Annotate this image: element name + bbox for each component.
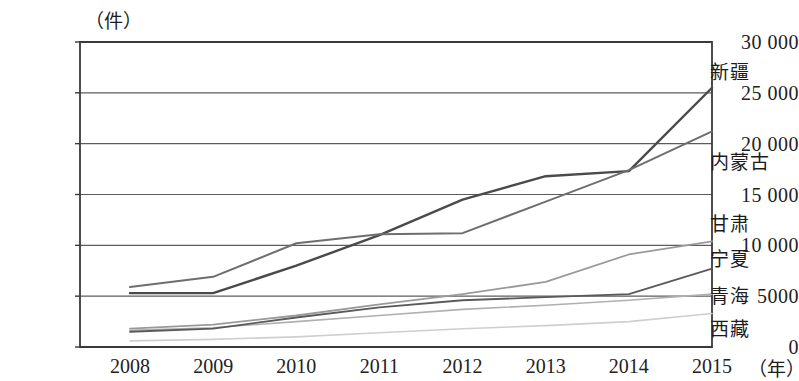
x-axis-tick-label: 2014 <box>609 355 649 378</box>
x-axis-tick-label: 2013 <box>526 355 566 378</box>
series-label-新疆: 新疆 <box>710 57 750 84</box>
x-axis-tick-label: 2015 <box>692 355 732 378</box>
series-line-2 <box>130 241 712 328</box>
y-axis-tick-label: 25 000 <box>727 81 799 104</box>
x-axis-tick-label: 2008 <box>110 355 150 378</box>
series-line-0 <box>130 88 712 293</box>
series-label-宁夏: 宁夏 <box>710 244 750 271</box>
series-label-西藏: 西藏 <box>710 314 750 341</box>
y-axis-tick-label: 15 000 <box>727 183 799 206</box>
y-axis-tick-label: 30 000 <box>727 31 799 54</box>
series-line-1 <box>130 131 712 287</box>
x-axis-unit-label: （年） <box>748 354 799 381</box>
x-axis-tick-label: 2011 <box>360 355 399 378</box>
x-axis-tick-label: 2009 <box>193 355 233 378</box>
x-axis-tick-label: 2012 <box>443 355 483 378</box>
series-label-青海: 青海 <box>710 281 750 308</box>
series-label-内蒙古: 内蒙古 <box>710 147 770 174</box>
series-label-甘肃: 甘肃 <box>710 209 750 236</box>
x-axis-tick-label: 2010 <box>276 355 316 378</box>
